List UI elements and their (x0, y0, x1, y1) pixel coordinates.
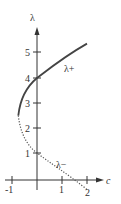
chart: λ c λ+ λ− -1 1 2 5 4 3 2 1 (0, 0, 121, 204)
y-axis-label: λ (30, 12, 35, 23)
y-tick-2: 2 (25, 123, 30, 134)
x-tick-2: 2 (85, 187, 90, 198)
x-axis-arrow-icon (96, 178, 104, 183)
x-tick-1: 1 (59, 184, 64, 195)
y-tick-1: 1 (25, 148, 30, 159)
y-tick-5: 5 (25, 47, 30, 58)
lambda-plus-label: λ+ (64, 63, 75, 74)
lambda-minus-label: λ− (56, 159, 67, 170)
y-axis-arrow-icon (35, 27, 40, 35)
x-axis-label: c (106, 175, 111, 186)
y-tick-3: 3 (25, 98, 30, 109)
y-tick-4: 4 (25, 73, 30, 84)
x-tick-m1: -1 (5, 184, 13, 195)
